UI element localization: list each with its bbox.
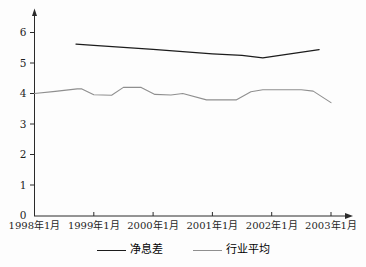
- series-line: [76, 44, 319, 58]
- x-tick-label: 2001年1月: [186, 219, 238, 231]
- y-tick-label: 1: [20, 179, 27, 191]
- line-chart: 0123456 1998年1月1999年1月2000年1月2001年1月2002…: [0, 0, 366, 238]
- x-tick-label: 1998年1月: [9, 219, 61, 231]
- x-axis-arrow-icon: [345, 213, 353, 219]
- legend-label-industry-average: 行业平均: [226, 243, 270, 257]
- y-tick-label: 5: [20, 57, 27, 69]
- y-tick-label: 3: [20, 118, 27, 130]
- legend-line-swatch-industry-average: [193, 250, 222, 251]
- x-axis-ticks: 1998年1月1999年1月2000年1月2001年1月2002年1月2003年…: [9, 212, 357, 231]
- y-tick-label: 2: [20, 148, 27, 160]
- axes: [32, 9, 353, 220]
- legend-label-net-interest-margin: 净息差: [130, 243, 163, 257]
- y-axis-ticks: 0123456: [20, 26, 35, 221]
- x-tick-label: 2003年1月: [305, 219, 357, 231]
- x-tick-label: 2002年1月: [246, 219, 298, 231]
- legend-item-net-interest-margin: 净息差: [97, 243, 163, 257]
- line-chart-figure: 0123456 1998年1月1999年1月2000年1月2001年1月2002…: [0, 0, 366, 267]
- series-lines: [35, 44, 332, 103]
- legend-line-swatch-net-interest-margin: [97, 250, 126, 251]
- y-tick-label: 4: [20, 87, 27, 99]
- legend: 净息差 行业平均: [0, 241, 366, 259]
- x-tick-label: 2000年1月: [127, 219, 179, 231]
- legend-item-industry-average: 行业平均: [193, 243, 270, 257]
- series-line: [35, 87, 332, 102]
- y-axis-arrow-icon: [32, 9, 37, 17]
- x-tick-label: 1999年1月: [68, 219, 120, 231]
- y-tick-label: 6: [20, 26, 27, 38]
